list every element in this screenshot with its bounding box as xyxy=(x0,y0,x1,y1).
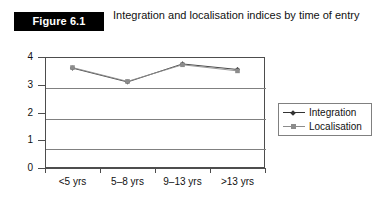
legend-marker-square-icon xyxy=(283,126,305,127)
legend-label-integration: Integration xyxy=(309,106,356,120)
y-tick-0 xyxy=(38,168,45,169)
x-tick-3 xyxy=(210,168,211,173)
y-tick-label-2: 2 xyxy=(3,108,33,118)
x-tick-4 xyxy=(265,168,266,173)
legend-label-localisation: Localisation xyxy=(309,120,362,134)
figure-title: Integration and localisation indices by … xyxy=(113,8,375,23)
x-tick-label-1: 5–8 yrs xyxy=(98,176,158,187)
data-point-localisation-1 xyxy=(125,79,130,84)
y-tick-2 xyxy=(38,113,45,114)
data-point-localisation-2 xyxy=(180,62,185,67)
y-tick-3 xyxy=(38,85,45,86)
data-point-localisation-0 xyxy=(70,65,75,70)
y-tick-label-3: 3 xyxy=(3,80,33,90)
x-tick-label-3: >13 yrs xyxy=(208,176,268,187)
data-series-layer xyxy=(45,57,265,168)
figure-label-text: Figure 6.1 xyxy=(14,12,104,31)
x-tick-1 xyxy=(100,168,101,173)
legend-marker-diamond-icon xyxy=(283,112,305,113)
figure-label-box: Figure 6.1 xyxy=(14,12,104,31)
y-tick-label-0: 0 xyxy=(3,163,33,173)
y-tick-label-1: 1 xyxy=(3,135,33,145)
legend-item-integration[interactable]: Integration xyxy=(283,106,371,120)
x-tick-0 xyxy=(45,168,46,173)
figure-container: Figure 6.1 Integration and localisation … xyxy=(0,0,386,206)
y-tick-label-4: 4 xyxy=(3,52,33,62)
legend-item-localisation[interactable]: Localisation xyxy=(283,120,371,134)
x-tick-2 xyxy=(155,168,156,173)
y-tick-4 xyxy=(38,57,45,58)
data-point-localisation-3 xyxy=(235,69,240,74)
y-tick-1 xyxy=(38,140,45,141)
legend: Integration Localisation xyxy=(278,103,372,136)
x-tick-label-0: <5 yrs xyxy=(43,176,103,187)
x-tick-label-2: 9–13 yrs xyxy=(153,176,213,187)
